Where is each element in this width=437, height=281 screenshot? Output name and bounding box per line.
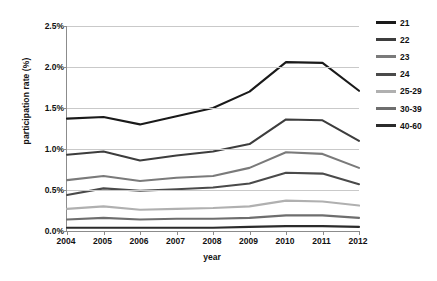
plot-area (66, 26, 359, 232)
x-tick-mark (140, 231, 141, 235)
x-tick-label: 2006 (130, 236, 149, 246)
x-tick-label: 2007 (166, 236, 185, 246)
legend-item-22[interactable]: 22 (376, 31, 436, 48)
legend-label: 30-39 (400, 104, 422, 114)
x-tick-mark (286, 231, 287, 235)
x-tick-mark (323, 231, 324, 235)
line-chart: participation rate (%) 0.0%0.5%1.0%1.5%2… (0, 0, 437, 281)
legend-item-23[interactable]: 23 (376, 48, 436, 65)
series-layer (67, 26, 359, 231)
legend-label: 23 (400, 52, 409, 62)
legend-swatch-icon (376, 124, 396, 127)
legend-swatch-icon (376, 107, 396, 110)
x-tick-mark (177, 231, 178, 235)
y-tick-label: 2.5% (45, 21, 64, 31)
y-tick-mark (63, 26, 67, 27)
legend-label: 25-29 (400, 86, 422, 96)
legend-label: 21 (400, 18, 409, 28)
legend-swatch-icon (376, 21, 396, 24)
y-tick-mark (63, 149, 67, 150)
y-tick-mark (63, 67, 67, 68)
y-tick-label: 0.5% (45, 185, 64, 195)
x-tick-mark (213, 231, 214, 235)
gridline (67, 108, 359, 109)
legend-label: 40-60 (400, 121, 422, 131)
x-axis-tick-labels: 200420052006200720082009201020112012 (66, 236, 358, 252)
x-tick-label: 2008 (203, 236, 222, 246)
gridline (67, 67, 359, 68)
y-tick-label: 0.0% (45, 226, 64, 236)
series-line-25-29 (67, 201, 359, 210)
legend-swatch-icon (376, 38, 396, 41)
legend-label: 24 (400, 69, 409, 79)
gridline (67, 26, 359, 27)
x-tick-label: 2010 (276, 236, 295, 246)
y-tick-label: 2.0% (45, 62, 64, 72)
gridline (67, 149, 359, 150)
gridline (67, 190, 359, 191)
legend-item-30-39[interactable]: 30-39 (376, 100, 436, 117)
x-tick-label: 2011 (312, 236, 330, 246)
x-tick-label: 2004 (57, 236, 76, 246)
x-tick-label: 2012 (349, 236, 368, 246)
y-tick-label: 1.0% (45, 144, 64, 154)
series-line-23 (67, 152, 359, 181)
legend: 2122232425-2930-3940-60 (376, 14, 436, 134)
x-tick-mark (67, 231, 68, 235)
x-tick-label: 2005 (93, 236, 112, 246)
y-tick-label: 1.5% (45, 103, 64, 113)
legend-item-21[interactable]: 21 (376, 14, 436, 31)
x-tick-mark (250, 231, 251, 235)
legend-swatch-icon (376, 73, 396, 76)
y-tick-mark (63, 190, 67, 191)
x-tick-mark (359, 231, 360, 235)
y-tick-mark (63, 108, 67, 109)
legend-label: 22 (400, 35, 409, 45)
legend-swatch-icon (376, 55, 396, 58)
legend-swatch-icon (376, 90, 396, 93)
x-tick-mark (104, 231, 105, 235)
x-tick-label: 2009 (239, 236, 258, 246)
series-line-30-39 (67, 215, 359, 219)
series-line-40-60 (67, 226, 359, 228)
legend-item-24[interactable]: 24 (376, 66, 436, 83)
legend-item-25-29[interactable]: 25-29 (376, 83, 436, 100)
x-axis-title: year (66, 252, 358, 262)
legend-item-40-60[interactable]: 40-60 (376, 117, 436, 134)
series-line-21 (67, 62, 359, 124)
